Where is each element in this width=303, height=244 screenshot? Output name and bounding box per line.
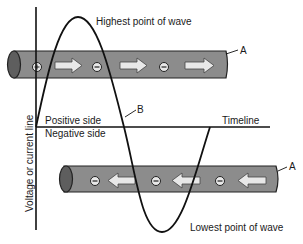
bottom-charge-minus (216, 177, 225, 186)
leader-a-bottom (278, 167, 287, 171)
bottom-charge-minus (152, 177, 161, 186)
top-conductor-end (8, 51, 21, 78)
label-highest-point: Highest point of wave (96, 16, 192, 27)
bottom-conductor-end (60, 166, 73, 192)
label-timeline: Timeline (222, 115, 260, 126)
top-charge-plus (33, 63, 42, 72)
leader-a-top (226, 50, 238, 54)
top-charge-minus (93, 63, 102, 72)
top-conductor (8, 51, 228, 78)
label-positive-side: Positive side (45, 115, 102, 126)
label-b: B (137, 104, 144, 115)
bottom-charge-minus (91, 177, 100, 186)
label-voltage-axis: Voltage or current line (24, 114, 35, 212)
bottom-conductor (60, 166, 279, 192)
label-a-bottom: A (289, 161, 296, 172)
label-a-top: A (240, 45, 247, 56)
ac-wave-diagram: Highest point of wave Lowest point of wa… (0, 0, 303, 244)
label-lowest-point: Lowest point of wave (190, 222, 284, 233)
leader-b (125, 110, 136, 117)
top-charge-minus (160, 63, 169, 72)
label-negative-side: Negative side (45, 128, 106, 139)
